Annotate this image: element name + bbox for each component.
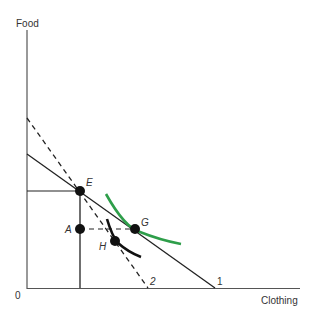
budget-line-1-label: 1: [217, 276, 223, 287]
point-a: [75, 224, 85, 234]
y-axis-label: Food: [16, 18, 39, 29]
point-a-label: A: [64, 224, 72, 235]
point-e: [75, 186, 85, 196]
consumer-choice-diagram: Food Clothing 0 1 2 E A G H: [0, 0, 316, 318]
budget-line-2-label: 2: [149, 276, 156, 287]
point-g: [130, 224, 140, 234]
x-axis-label: Clothing: [261, 295, 298, 306]
point-e-label: E: [86, 177, 93, 188]
point-h: [110, 236, 120, 246]
budget-line-1: [27, 154, 215, 288]
point-h-label: H: [99, 241, 107, 252]
point-g-label: G: [141, 217, 149, 228]
origin-label: 0: [15, 290, 21, 301]
budget-line-2: [27, 118, 148, 288]
